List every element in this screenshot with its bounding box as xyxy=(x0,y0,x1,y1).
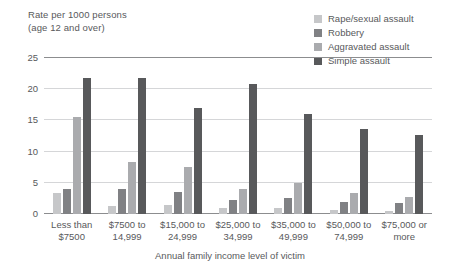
x-axis-title: Annual family income level of victim xyxy=(0,250,460,261)
bar xyxy=(274,208,282,214)
legend-item: Robbery xyxy=(314,26,460,40)
bar-chart: Rate per 1000 persons (age 12 and over) … xyxy=(0,0,460,269)
bar xyxy=(108,206,116,214)
bar xyxy=(83,78,91,214)
bar xyxy=(73,117,81,214)
bar-group xyxy=(210,58,265,214)
y-axis-title-line-1: Rate per 1000 persons xyxy=(28,9,127,22)
bar-group xyxy=(99,58,154,214)
bar xyxy=(194,108,202,214)
bar-group-bars xyxy=(266,58,321,214)
bar xyxy=(350,193,358,214)
bar xyxy=(330,210,338,214)
plot-area: 0510152025 xyxy=(44,58,432,214)
bar-group xyxy=(377,58,432,214)
bar xyxy=(128,162,136,214)
bar xyxy=(239,189,247,214)
x-axis-category-label-line: $75,000 or xyxy=(377,219,432,231)
bar xyxy=(138,78,146,214)
bar xyxy=(340,202,348,214)
y-axis-tick-label: 10 xyxy=(27,145,38,156)
y-axis-tick-label: 0 xyxy=(33,208,38,219)
x-axis-category-label: $15,000 to24,999 xyxy=(155,219,210,243)
bar-group xyxy=(321,58,376,214)
bar-groups xyxy=(44,58,432,214)
bar xyxy=(415,135,423,214)
bar xyxy=(219,208,227,214)
legend-label: Rape/sexual assault xyxy=(328,13,414,24)
bar xyxy=(63,189,71,214)
x-axis-category-label-line: more xyxy=(377,231,432,243)
bar xyxy=(184,167,192,214)
x-axis-category-label-line: Less than xyxy=(44,219,99,231)
y-axis-tick-label: 15 xyxy=(27,114,38,125)
legend-label: Robbery xyxy=(328,27,364,38)
legend-label: Aggravated assault xyxy=(328,41,409,52)
bar xyxy=(249,84,257,214)
legend-swatch-icon xyxy=(314,15,322,23)
bar xyxy=(304,114,312,214)
legend-swatch-icon xyxy=(314,29,322,37)
y-axis-tick-label: 25 xyxy=(27,52,38,63)
x-axis-labels: Less than$7500$7500 to14,999$15,000 to24… xyxy=(44,219,432,243)
x-axis-category-label: $35,000 to49,999 xyxy=(266,219,321,243)
x-axis-category-label: $7500 to14,999 xyxy=(99,219,154,243)
legend-item: Rape/sexual assault xyxy=(314,12,460,26)
bar-group-bars xyxy=(210,58,265,214)
x-axis-category-label: $50,000 to74,999 xyxy=(321,219,376,243)
bar-group-bars xyxy=(321,58,376,214)
bar-group xyxy=(155,58,210,214)
y-axis-tick-label: 20 xyxy=(27,83,38,94)
x-axis-category-label-line: $25,000 to xyxy=(210,219,265,231)
bar xyxy=(360,129,368,214)
x-axis-category-label-line: $50,000 to xyxy=(321,219,376,231)
bar-group xyxy=(266,58,321,214)
legend-swatch-icon xyxy=(314,43,322,51)
y-axis-title: Rate per 1000 persons (age 12 and over) xyxy=(28,9,127,34)
y-axis-title-line-2: (age 12 and over) xyxy=(28,22,127,35)
bar xyxy=(118,189,126,214)
x-axis-category-label-line: $35,000 to xyxy=(266,219,321,231)
x-axis-category-label: Less than$7500 xyxy=(44,219,99,243)
x-axis-category-label-line: 14,999 xyxy=(99,231,154,243)
x-axis-category-label: $25,000 to34,999 xyxy=(210,219,265,243)
x-axis-category-label-line: 49,999 xyxy=(266,231,321,243)
bar-group-bars xyxy=(155,58,210,214)
legend-item: Aggravated assault xyxy=(314,40,460,54)
bar xyxy=(294,183,302,214)
bar-group-bars xyxy=(377,58,432,214)
x-axis-category-label-line: 74,999 xyxy=(321,231,376,243)
x-axis-category-label-line: 34,999 xyxy=(210,231,265,243)
x-axis-category-label-line: $7500 to xyxy=(99,219,154,231)
bar-group-bars xyxy=(99,58,154,214)
x-axis-category-label: $75,000 ormore xyxy=(377,219,432,243)
x-axis-category-label-line: 24,999 xyxy=(155,231,210,243)
bar-group xyxy=(44,58,99,214)
bar xyxy=(284,198,292,214)
y-axis-tick-label: 5 xyxy=(33,176,38,187)
bar xyxy=(385,211,393,214)
x-axis-category-label-line: $15,000 to xyxy=(155,219,210,231)
bar xyxy=(164,205,172,214)
x-axis-category-label-line: $7500 xyxy=(44,231,99,243)
bar xyxy=(405,197,413,214)
bar xyxy=(229,200,237,214)
bar xyxy=(53,193,61,214)
bar-group-bars xyxy=(44,58,99,214)
bar xyxy=(174,192,182,214)
bar xyxy=(395,203,403,214)
